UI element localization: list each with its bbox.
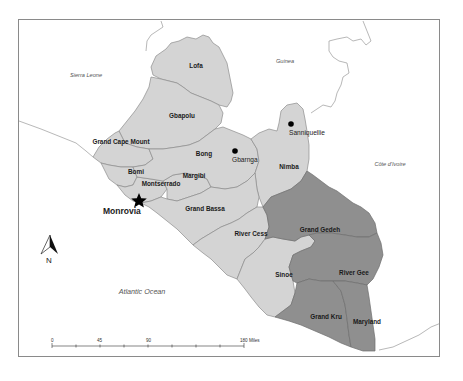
map-frame: Lofa Gbapolu Grand Cape Mount Bong Bomi … [18,19,440,357]
map-canvas: Lofa Gbapolu Grand Cape Mount Bong Bomi … [19,20,440,357]
label-maryland: Maryland [353,318,381,326]
label-grand-kru: Grand Kru [310,313,342,320]
label-bong: Bong [196,150,212,158]
scale-bar: 0 45 90 180 Miles [51,338,260,348]
scale-tick-180: 180 Miles [240,338,260,343]
label-grand-cape-mount: Grand Cape Mount [92,138,150,146]
label-sanniquellie: Sanniquellie [289,129,325,137]
sierra-leone-guinea-border [146,21,163,51]
label-bomi: Bomi [128,168,144,175]
label-cote-divoire: Côte d'Ivoire [374,161,405,167]
label-grand-gedeh: Grand Gedeh [300,226,341,233]
label-river-gee: River Gee [339,269,369,276]
label-montserrado: Montserrado [142,180,181,187]
label-margibi: Margibi [183,172,206,180]
label-gbapolu: Gbapolu [169,112,195,120]
label-gbarnga: Gbarnga [232,156,258,164]
guinea-cote-divoire-border [311,21,371,113]
sierra-leone-coast [19,121,93,157]
scale-tick-0: 0 [51,338,54,343]
label-sinoe: Sinoe [275,271,293,278]
label-lofa: Lofa [189,62,203,69]
scale-tick-90: 90 [146,338,152,343]
city-marker-sanniquellie [288,121,294,127]
label-monrovia: Monrovia [103,206,141,216]
label-grand-bassa: Grand Bassa [185,205,225,212]
label-river-cess: River Cess [234,230,267,237]
label-nimba: Nimba [279,163,299,170]
cote-divoire-coast [379,323,440,350]
label-sierra-leone: Sierra Leone [70,72,102,78]
label-atlantic-ocean: Atlantic Ocean [118,287,166,296]
label-guinea: Guinea [276,58,294,64]
north-arrow-icon: N [41,235,58,265]
north-label: N [46,256,52,265]
city-marker-gbarnga [232,148,238,154]
scale-tick-45: 45 [97,338,103,343]
